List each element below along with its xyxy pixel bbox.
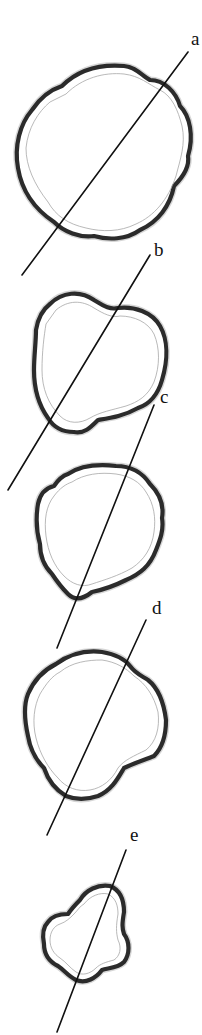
section-a: a: [17, 28, 200, 275]
section-a-outline: [17, 66, 191, 239]
section-c-outline: [37, 465, 163, 598]
label-b: b: [154, 239, 164, 260]
section-b: b: [8, 239, 166, 490]
label-e: e: [130, 824, 138, 845]
label-a: a: [191, 28, 200, 49]
cross-section-figure: a b c d e: [0, 0, 202, 1035]
section-b-outline: [34, 294, 166, 433]
label-d: d: [152, 597, 162, 618]
section-d: d: [25, 597, 166, 835]
section-e-outline: [43, 886, 128, 982]
section-d-outline: [25, 652, 166, 800]
section-e: e: [43, 824, 138, 1032]
label-c: c: [160, 386, 168, 407]
